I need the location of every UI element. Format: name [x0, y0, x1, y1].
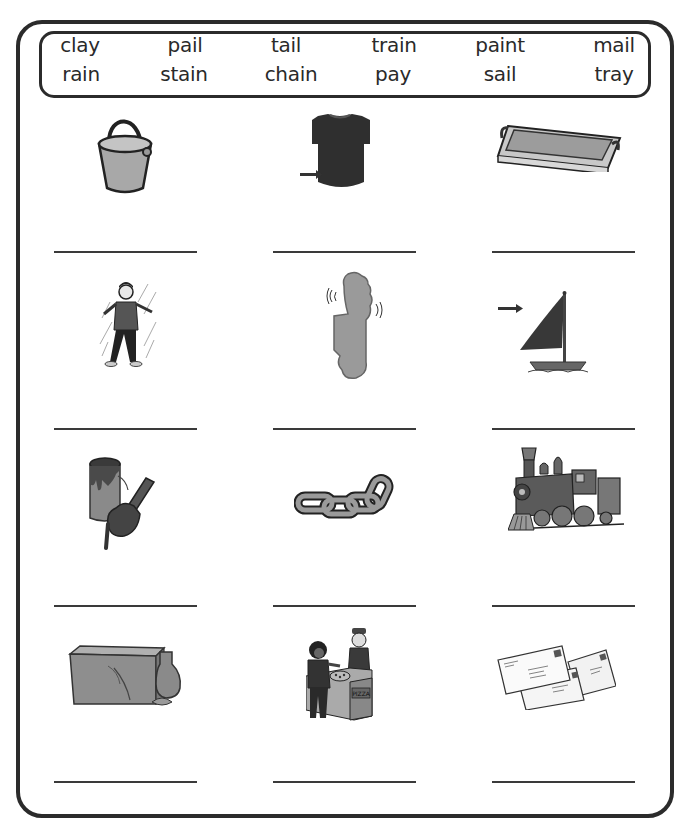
word-bank-word: chain: [265, 62, 318, 86]
answer-line[interactable]: [492, 428, 635, 430]
word-bank-word: paint: [475, 33, 525, 57]
answer-line[interactable]: [273, 781, 416, 783]
steam-train-icon: [508, 444, 626, 544]
word-bank-word: pail: [168, 33, 203, 57]
boy-in-rain-icon: [98, 278, 162, 370]
chain-links-icon: [294, 474, 402, 520]
word-bank-word: mail: [593, 33, 635, 57]
answer-line[interactable]: [273, 605, 416, 607]
word-bank-word: train: [371, 33, 416, 57]
sailboat-sail-arrow-icon: [498, 290, 608, 374]
word-bank: [39, 31, 651, 98]
answer-line[interactable]: [54, 251, 197, 253]
answer-line[interactable]: [492, 781, 635, 783]
word-bank-word: rain: [62, 62, 100, 86]
word-bank-word: clay: [60, 33, 99, 57]
word-bank-word: sail: [484, 62, 517, 86]
word-bank-word: stain: [160, 62, 207, 86]
answer-line[interactable]: [54, 781, 197, 783]
paint-can-brush-icon: [88, 450, 168, 550]
shirt-stain-arrow-icon: [300, 112, 380, 192]
bucket-pail-icon: [95, 112, 159, 196]
paying-for-pizza-icon: PIZZA: [306, 626, 394, 722]
wiggling-foot-icon: [326, 270, 388, 382]
answer-line[interactable]: [492, 605, 635, 607]
serving-tray-icon: [496, 116, 622, 172]
answer-line[interactable]: [273, 251, 416, 253]
svg-text:PIZZA: PIZZA: [352, 690, 371, 697]
clay-block-icon: [68, 644, 184, 712]
word-bank-word: pay: [375, 62, 411, 86]
word-bank-word: tray: [595, 62, 634, 86]
answer-line[interactable]: [54, 605, 197, 607]
answer-line[interactable]: [492, 251, 635, 253]
answer-line[interactable]: [54, 428, 197, 430]
mail-envelopes-icon: [496, 640, 616, 710]
answer-line[interactable]: [273, 428, 416, 430]
word-bank-word: tail: [271, 33, 301, 57]
